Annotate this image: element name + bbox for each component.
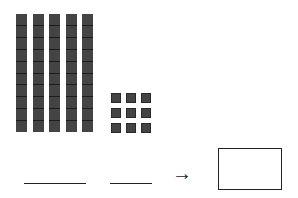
rod-cell: [49, 121, 60, 132]
tens-rod: [66, 14, 77, 132]
rod-cell: [16, 85, 27, 97]
rod-cell: [82, 26, 93, 38]
rod-cell: [16, 97, 27, 109]
rod-cell: [66, 50, 77, 62]
rod-cell: [33, 38, 44, 50]
rod-cell: [49, 26, 60, 38]
unit-cube: [141, 108, 151, 118]
arrow-right-icon: →: [172, 163, 192, 183]
answer-box[interactable]: [218, 148, 282, 190]
rod-cell: [66, 85, 77, 97]
tens-rod: [16, 14, 27, 132]
rod-cell: [82, 50, 93, 62]
rod-cell: [16, 109, 27, 121]
rod-cell: [49, 14, 60, 26]
tens-rod: [49, 14, 60, 132]
rod-cell: [82, 62, 93, 74]
rod-cell: [16, 26, 27, 38]
ones-blank[interactable]: [110, 183, 152, 184]
tens-rod: [82, 14, 93, 132]
rod-cell: [33, 74, 44, 86]
rod-cell: [82, 38, 93, 50]
rod-cell: [49, 97, 60, 109]
rod-cell: [33, 26, 44, 38]
unit-cube: [111, 123, 121, 133]
rod-cell: [33, 121, 44, 132]
unit-cube: [141, 93, 151, 103]
rod-cell: [49, 50, 60, 62]
unit-cube: [126, 123, 136, 133]
unit-cube: [126, 93, 136, 103]
rod-cell: [33, 14, 44, 26]
tens-blank[interactable]: [24, 183, 86, 184]
rod-cell: [16, 74, 27, 86]
rod-cell: [66, 26, 77, 38]
rod-cell: [49, 109, 60, 121]
rod-cell: [49, 38, 60, 50]
rod-cell: [33, 97, 44, 109]
rod-cell: [66, 121, 77, 132]
unit-cube: [141, 123, 151, 133]
rod-cell: [33, 85, 44, 97]
tens-rod: [33, 14, 44, 132]
rod-cell: [16, 50, 27, 62]
rod-cell: [66, 109, 77, 121]
rod-cell: [66, 14, 77, 26]
rod-cell: [49, 62, 60, 74]
rod-cell: [82, 74, 93, 86]
rod-cell: [66, 38, 77, 50]
rod-cell: [82, 85, 93, 97]
rod-cell: [16, 62, 27, 74]
rod-cell: [49, 74, 60, 86]
rod-cell: [66, 97, 77, 109]
rod-cell: [49, 85, 60, 97]
rod-cell: [66, 74, 77, 86]
rod-cell: [82, 97, 93, 109]
unit-cube: [111, 108, 121, 118]
rod-cell: [33, 62, 44, 74]
unit-cube: [126, 108, 136, 118]
unit-cube: [111, 93, 121, 103]
rod-cell: [16, 121, 27, 132]
rod-cell: [16, 14, 27, 26]
rod-cell: [82, 109, 93, 121]
rod-cell: [33, 50, 44, 62]
rod-cell: [82, 121, 93, 132]
rod-cell: [66, 62, 77, 74]
rod-cell: [82, 14, 93, 26]
rod-cell: [16, 38, 27, 50]
rod-cell: [33, 109, 44, 121]
